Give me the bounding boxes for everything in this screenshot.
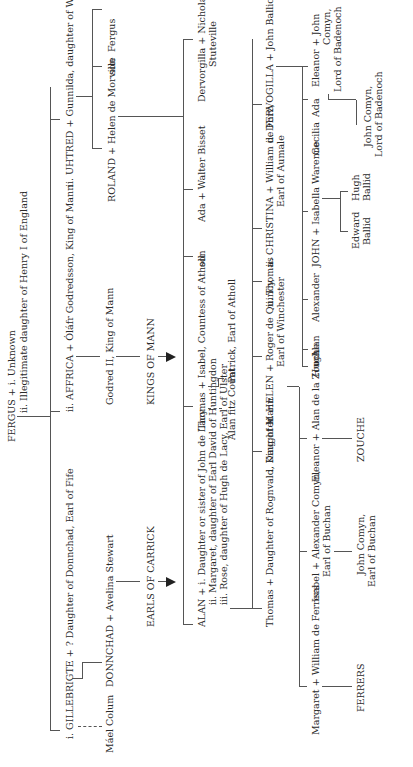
connector bbox=[50, 411, 60, 412]
connector bbox=[72, 678, 82, 679]
hugh-balliol: Hugh bbox=[350, 174, 361, 201]
earls-of-carrick: EARLS OF CARRICK bbox=[145, 526, 156, 627]
eleanor-comyn-2: Comyn, bbox=[321, 8, 332, 45]
dervogilla: ii. DERVOGILLA + John Balliol bbox=[264, 0, 275, 143]
connector bbox=[183, 189, 193, 190]
son: son bbox=[106, 58, 117, 75]
john-comyn-buchan-2: Earl of Buchan bbox=[366, 515, 377, 587]
margaret-ferrers: Margaret + William de Ferrers bbox=[310, 585, 321, 735]
connector bbox=[183, 406, 193, 407]
alexander: Alexander bbox=[310, 273, 321, 322]
zouche-line: ZOUCHE bbox=[355, 417, 366, 462]
patrick-atholl: Patrick, Earl of Atholl bbox=[226, 279, 237, 383]
connector bbox=[158, 356, 166, 357]
fergus-second-spouse: ii. Illegitimate daughter of Henry I of … bbox=[18, 191, 29, 413]
isabel-spouse-title: Earl of Buchan bbox=[321, 505, 332, 577]
eleanor-comyn: Eleanor + John bbox=[310, 14, 321, 87]
connector bbox=[92, 148, 102, 149]
connector bbox=[183, 39, 193, 40]
connector bbox=[92, 66, 102, 67]
connector bbox=[208, 386, 218, 387]
dervorgilla-stuteville-2: Stuteville bbox=[207, 21, 218, 67]
ferrers-line: FERRERS bbox=[355, 664, 366, 712]
godred: Godred II, King of Mann bbox=[104, 288, 115, 405]
gen3-bar bbox=[183, 40, 184, 625]
connector bbox=[158, 581, 166, 582]
gen5-bar-helen bbox=[299, 387, 300, 687]
connector bbox=[183, 624, 193, 625]
ada-gen5: Ada bbox=[310, 98, 321, 117]
connector bbox=[118, 116, 183, 117]
donnchad: DONNCHAD + Avelina Stewart bbox=[104, 534, 115, 687]
connector bbox=[116, 356, 140, 357]
connector bbox=[50, 119, 60, 120]
cecilia: Cecilia bbox=[310, 122, 321, 155]
connector bbox=[92, 9, 102, 10]
john-comyn-badenoch-2: Lord of Badenoch bbox=[373, 71, 384, 157]
dervorgilla-stuteville: Dervorgilla + Nicholas de bbox=[196, 0, 207, 102]
john-comyn-badenoch: John Comyn, bbox=[362, 86, 373, 147]
alan-spouse-2: ii. Margaret, daughter of Earl David of … bbox=[207, 358, 218, 605]
connector bbox=[230, 608, 252, 609]
connector bbox=[82, 662, 102, 663]
uhtred: ii. UHTRED + Gunnilda, daughter of Walth… bbox=[64, 0, 75, 187]
helen-spouse-title: Earl of Winchester bbox=[275, 277, 286, 367]
gen1-bar bbox=[50, 87, 51, 731]
son-gen3: son bbox=[196, 250, 207, 267]
dashed-connector bbox=[78, 726, 102, 727]
daughter: i. Daughter bbox=[264, 417, 275, 472]
connector bbox=[116, 581, 140, 582]
connector bbox=[17, 416, 51, 417]
kings-of-mann: KINGS OF MANN bbox=[145, 318, 156, 405]
gen5-bar-balliol bbox=[302, 67, 303, 367]
edward-balliol-2: Ballid bbox=[361, 217, 372, 245]
connector bbox=[50, 730, 60, 731]
john-warenne: JOHN + Isabella Warenne bbox=[310, 141, 321, 267]
hugh-balliol-2: Ballid bbox=[361, 173, 372, 201]
connector bbox=[82, 663, 83, 679]
eleanor-comyn-3: Lord of Badenoch bbox=[332, 6, 343, 92]
affrica: ii. AFFRICA + Óláfr Godredsson, King of … bbox=[64, 185, 75, 412]
gen4-bar bbox=[252, 39, 253, 609]
connector bbox=[76, 96, 92, 97]
ada-bisset: Ada + Walter Bisset bbox=[196, 126, 207, 222]
fergus-root: FERGUS + i. Unknown bbox=[6, 330, 17, 442]
gillebrigte: i. GILLEBRIGTE + ? Daughter of Donnchad,… bbox=[64, 468, 75, 739]
john-comyn-buchan: John Comyn, bbox=[355, 514, 366, 575]
roland: ROLAND + Helen de Morville bbox=[106, 57, 117, 202]
family-tree-diagram: FERGUS + i. Unknown ii. Illegitimate dau… bbox=[0, 0, 413, 767]
dashed-connector bbox=[208, 408, 222, 409]
thomas-atholl: Thomas + Isabel, Countess of Atholl bbox=[196, 255, 207, 430]
arrow-icon bbox=[166, 577, 176, 587]
connector bbox=[183, 256, 193, 257]
connector bbox=[76, 356, 100, 357]
christina-spouse-title: Earl of Aumale bbox=[275, 135, 286, 207]
arrow-icon bbox=[166, 352, 176, 362]
alan: ALAN + i. Daughter or sister of John de … bbox=[196, 409, 207, 627]
mael-colum: Máel Colum bbox=[104, 695, 115, 753]
fergus: Fergus bbox=[106, 19, 117, 52]
alan-gen5: Alan bbox=[310, 335, 321, 357]
edward-balliol: Edward bbox=[350, 212, 361, 249]
gen2-bar bbox=[92, 9, 93, 149]
isabel-comyn: Isabel + Alexander Comyn, bbox=[310, 471, 321, 602]
